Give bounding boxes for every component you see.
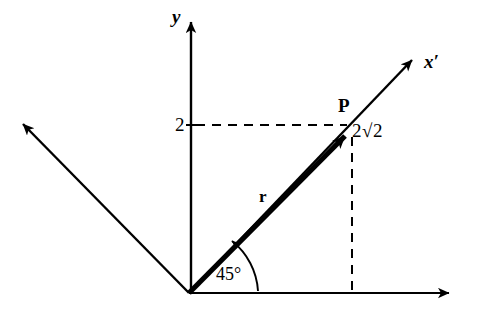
point-label-p: P (338, 96, 350, 115)
x-prime-axis-label: x′ (424, 52, 439, 71)
vector-r-line (189, 136, 345, 293)
coordinate-diagram-figure: y x′ ′ 2 P 2√2 r 45° (0, 0, 484, 309)
y-axis-tick-label-2: 2 (175, 115, 185, 134)
angle-label-45: 45° (216, 265, 241, 283)
vector-r-label: r (259, 188, 267, 205)
y-prime-axis-line (23, 124, 189, 293)
y-axis-label: y (172, 7, 180, 26)
diagram-canvas (0, 0, 484, 309)
radius-value-label: 2√2 (352, 121, 383, 140)
